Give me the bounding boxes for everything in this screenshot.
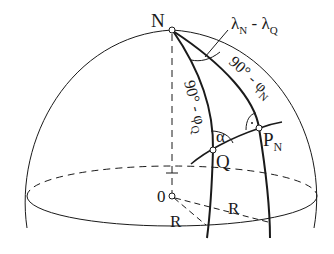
label-center: 0 — [157, 187, 166, 206]
label-radius-right: R — [228, 199, 240, 218]
label-p-main: P — [263, 129, 274, 150]
point-p — [256, 125, 262, 131]
arc-left-sub: Q — [189, 124, 203, 135]
label-lambda-difference: λN - λQ — [231, 14, 278, 36]
lambda-2-sub: Q — [270, 24, 278, 36]
radius-to-p-meridian — [175, 198, 268, 222]
center-point — [169, 193, 175, 199]
label-alpha: α — [216, 127, 225, 146]
right-angle-dot — [251, 122, 253, 124]
arc-left-text: 90° - φ — [180, 78, 209, 126]
meridian-q — [173, 31, 213, 238]
label-radius-left: R — [170, 212, 182, 231]
spherical-triangle-diagram: N λN - λQ 90° - φN 90° - φQ α Q PN 0 R R — [0, 0, 334, 254]
minus: - — [247, 14, 261, 33]
label-q: Q — [216, 151, 230, 172]
north-pole-point — [169, 27, 175, 33]
label-north: N — [151, 10, 165, 31]
label-arc-left: 90° - φQ — [177, 78, 211, 135]
diagram-canvas: N λN - λQ 90° - φN 90° - φQ α Q PN 0 R R — [0, 0, 334, 254]
right-angle-arc — [246, 113, 256, 130]
label-p: PN — [263, 129, 283, 154]
label-p-sub: N — [274, 140, 283, 154]
lambda-1-sub: N — [239, 24, 247, 36]
